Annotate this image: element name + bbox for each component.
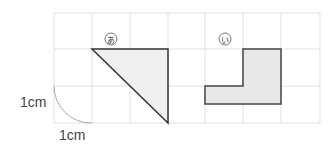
label-a: あ xyxy=(107,36,115,45)
unit-label-vertical: 1cm xyxy=(20,94,46,110)
grid-diagram: あ い xyxy=(0,0,333,155)
shape-i-l-shape xyxy=(205,49,281,104)
label-i: い xyxy=(221,36,229,45)
unit-label-horizontal: 1cm xyxy=(59,127,85,143)
unit-arc xyxy=(54,86,92,123)
